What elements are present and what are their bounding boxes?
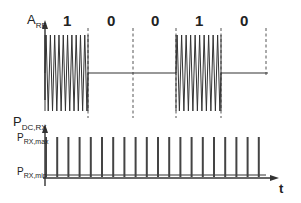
power-axis xyxy=(42,124,279,186)
time-axis-label: t xyxy=(279,181,283,196)
bit-label-5: 0 xyxy=(240,12,248,29)
bit-label-1: 1 xyxy=(63,12,71,29)
level-max-label: PRX,max xyxy=(17,132,49,145)
rf-burst-2 xyxy=(176,35,221,111)
bit-label-4: 1 xyxy=(195,12,203,29)
rf-burst-1 xyxy=(45,35,88,111)
power-axis-label: PDC,RX xyxy=(13,114,47,132)
bit-label-2: 0 xyxy=(107,12,115,29)
rf-axis-label: ARF xyxy=(27,12,46,30)
power-pulses xyxy=(46,137,259,177)
bit-label-3: 0 xyxy=(151,12,159,29)
level-min-label: PRX,min xyxy=(17,166,47,179)
